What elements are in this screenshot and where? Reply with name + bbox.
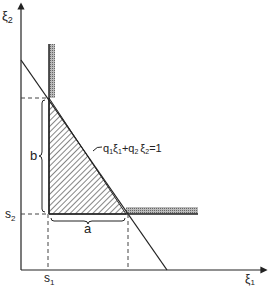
- budget-constraint-diagram: ξ2 ξ1 s1 s2 b a q1ξ1+q2ξ2=1: [0, 0, 268, 287]
- brace-b: [39, 100, 45, 212]
- horizontal-constraint-bar: [126, 207, 198, 214]
- a-label: a: [84, 221, 92, 236]
- s2-label: s2: [5, 207, 16, 223]
- x-axis-label: ξ1: [245, 272, 255, 287]
- vertical-constraint-bar: [49, 44, 55, 98]
- budget-line: [21, 60, 167, 270]
- equation-leader: [93, 147, 102, 151]
- y-axis-label: ξ2: [2, 8, 13, 25]
- s1-label: s1: [44, 271, 55, 287]
- budget-line-equation: q1ξ1+q2ξ2=1: [103, 142, 162, 155]
- b-label: b: [30, 148, 37, 163]
